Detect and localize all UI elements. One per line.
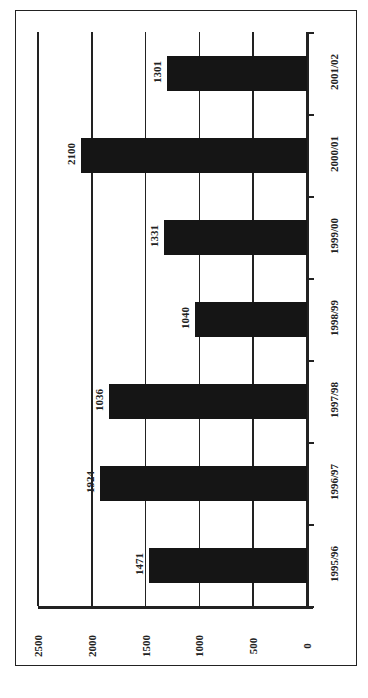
data-label: 1331: [148, 216, 160, 256]
data-label: 1471: [133, 544, 145, 584]
value-axis-label: 0: [301, 626, 313, 666]
category-tick: [307, 278, 314, 280]
value-axis-label: 1000: [193, 626, 205, 666]
gridline: [37, 32, 39, 606]
category-label: 1995/96: [328, 539, 340, 589]
data-label: 1301: [151, 52, 163, 92]
category-tick: [307, 360, 314, 362]
gridline: [145, 32, 147, 606]
category-tick: [307, 524, 314, 526]
category-label: 2000/01: [328, 129, 340, 179]
category-tick: [307, 196, 314, 198]
value-axis-label: 1500: [140, 626, 152, 666]
category-tick: [307, 32, 314, 34]
value-axis-label: 500: [247, 626, 259, 666]
value-axis-label: 2500: [32, 626, 44, 666]
category-tick: [307, 442, 314, 444]
data-label: 1036: [93, 380, 105, 420]
bar-1996-97: [100, 466, 307, 501]
category-tick: [307, 114, 314, 116]
bar-1995-96: [149, 548, 307, 583]
category-label: 1998/99: [328, 293, 340, 343]
gridline: [91, 32, 93, 606]
value-axis-line: [38, 606, 313, 609]
category-label: 1999/00: [328, 211, 340, 261]
category-label: 1996/97: [328, 457, 340, 507]
bar-1997-98: [109, 384, 307, 419]
bar-1998-99: [195, 302, 307, 337]
bar-2000-01: [81, 138, 307, 173]
data-label: 1924: [84, 462, 96, 502]
bar-2001-02: [167, 56, 307, 91]
data-label: 1040: [179, 298, 191, 338]
category-tick: [307, 606, 314, 608]
bar-1999-00: [164, 220, 307, 255]
category-label: 2001/02: [328, 47, 340, 97]
value-axis-label: 2000: [86, 626, 98, 666]
category-label: 1997/98: [328, 375, 340, 425]
data-label: 2100: [65, 134, 77, 174]
